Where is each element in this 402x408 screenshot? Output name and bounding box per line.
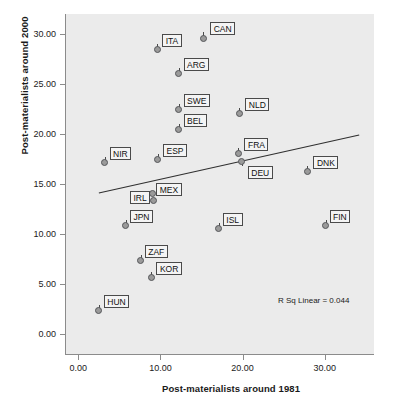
point-label-zaf: ZAF [145,245,168,258]
data-point-jpn [122,222,129,229]
y-tick-label: 30.00 [8,29,56,39]
y-tick-label: 5.00 [8,279,56,289]
point-label-arg: ARG [184,58,209,71]
data-point-irl [150,197,157,204]
x-tick-label: 20.00 [218,363,268,373]
x-axis-line [65,354,374,355]
point-label-mex: MEX [156,183,181,196]
point-label-hun: HUN [104,295,129,308]
x-tick-label: 30.00 [300,363,350,373]
point-label-bel: BEL [184,114,207,127]
y-axis-title: Post-materialists around 2000 [19,0,30,196]
data-point-nir [101,159,108,166]
point-label-nir: NIR [110,147,132,160]
data-point-swe [175,106,182,113]
y-tick-label: 10.00 [8,229,56,239]
point-label-fra: FRA [244,138,268,151]
x-tick-mark [243,354,244,360]
data-point-fin [322,222,329,229]
x-tick-label: 10.00 [135,363,185,373]
x-axis-title: Post-materialists around 1981 [66,383,396,394]
data-point-nld [236,110,243,117]
point-label-ita: ITA [162,34,182,47]
point-label-irl: IRL [130,191,150,204]
data-point-arg [175,70,182,77]
point-label-esp: ESP [163,144,187,157]
y-tick-label: 25.00 [8,79,56,89]
point-label-nld: NLD [245,98,269,111]
y-tick-label: 0.00 [8,329,56,339]
data-point-zaf [137,257,144,264]
data-point-can [200,35,207,42]
scatter-chart: 0.005.0010.0015.0020.0025.0030.00 0.0010… [0,0,402,408]
y-tick-label: 15.00 [8,179,56,189]
y-tick-label: 20.00 [8,129,56,139]
r-squared-annotation: R Sq Linear = 0.044 [278,296,349,305]
point-label-jpn: JPN [130,210,153,223]
point-label-isl: ISL [223,213,243,226]
point-label-swe: SWE [184,94,210,107]
point-label-can: CAN [210,22,235,35]
point-label-dnk: DNK [313,156,338,169]
x-tick-mark [78,354,79,360]
point-label-deu: DEU [248,166,273,179]
data-point-ita [154,46,161,53]
point-label-fin: FIN [330,210,351,223]
x-tick-label: 0.00 [53,363,103,373]
data-point-isl [215,225,222,232]
x-tick-mark [325,354,326,360]
data-point-bel [175,126,182,133]
data-point-deu [238,158,245,165]
data-point-kor [148,274,155,281]
x-tick-mark [160,354,161,360]
data-point-fra [235,150,242,157]
point-label-kor: KOR [156,262,181,275]
data-point-hun [95,307,102,314]
data-point-dnk [304,168,311,175]
